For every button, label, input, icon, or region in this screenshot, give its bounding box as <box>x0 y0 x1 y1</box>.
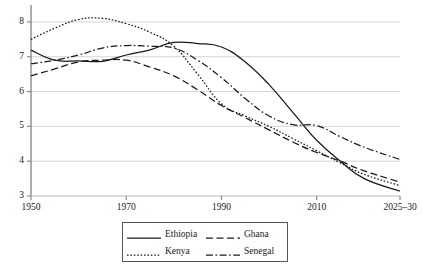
x-tick-label-1950: 1950 <box>8 202 54 212</box>
legend-label-senegal: Senegal <box>244 246 274 256</box>
legend-swatch-ghana <box>205 229 241 239</box>
legend-entry-senegal[interactable]: Senegal <box>205 242 284 259</box>
legend-label-kenya: Kenya <box>165 246 190 256</box>
x-tick-label-2010: 2010 <box>294 202 340 212</box>
legend-grid: EthiopiaGhanaKenyaSenegal <box>123 223 287 261</box>
x-tick-label-1970: 1970 <box>103 202 149 212</box>
y-tick-label-6: 6 <box>10 86 24 96</box>
series-line-ethiopia <box>31 42 400 191</box>
legend: EthiopiaGhanaKenyaSenegal <box>122 222 288 262</box>
legend-swatch-senegal <box>205 246 241 256</box>
series-line-kenya <box>31 18 400 186</box>
legend-swatch-ethiopia <box>126 229 162 239</box>
legend-label-ethiopia: Ethiopia <box>165 229 197 239</box>
y-tick-label-8: 8 <box>10 16 24 26</box>
gridlines <box>31 22 400 196</box>
legend-label-ghana: Ghana <box>244 229 269 239</box>
y-tick-label-7: 7 <box>10 51 24 61</box>
x-tick-label-1990: 1990 <box>198 202 244 212</box>
x-tick-label-202530: 2025–30 <box>377 202 422 212</box>
series-line-senegal <box>31 45 400 159</box>
series-lines <box>31 18 400 191</box>
y-tick-label-4: 4 <box>10 155 24 165</box>
legend-entry-ghana[interactable]: Ghana <box>205 225 284 242</box>
tick-marks <box>27 22 400 200</box>
legend-entry-kenya[interactable]: Kenya <box>126 242 205 259</box>
series-line-ghana <box>31 59 400 182</box>
legend-entry-ethiopia[interactable]: Ethiopia <box>126 225 205 242</box>
axis-lines <box>31 5 400 196</box>
legend-swatch-kenya <box>126 246 162 256</box>
y-tick-label-3: 3 <box>10 190 24 200</box>
y-tick-label-5: 5 <box>10 120 24 130</box>
